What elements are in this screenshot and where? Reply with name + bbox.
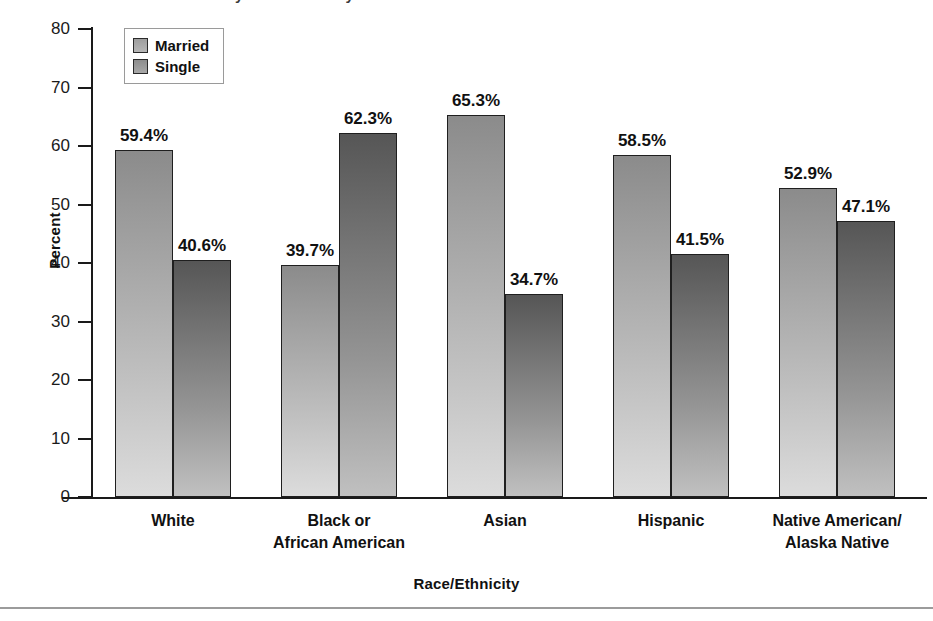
y-axis-tick-label: 10 [30,430,70,447]
y-axis-tick-mark [78,438,92,440]
legend-label: Married [155,37,209,54]
y-axis-tick-label: 80 [30,20,70,37]
x-axis-line [62,497,927,499]
bar-single: 34.7% [505,294,563,497]
bar-single: 40.6% [173,260,231,498]
bar-single: 47.1% [837,221,895,497]
y-axis-tick-mark [78,379,92,381]
bar-value-label: 47.1% [842,197,890,217]
bottom-divider-rule [0,607,933,609]
bar-value-label: 52.9% [784,164,832,184]
bar-married: 59.4% [115,150,173,497]
bar-value-label: 34.7% [510,270,558,290]
plot-area: 59.4%40.6%39.7%62.3%65.3%34.7%58.5%41.5%… [93,29,925,497]
group-label-line: Native American/ [727,510,933,532]
x-axis-title: Race/Ethnicity [0,575,933,592]
legend-entry: Single [133,56,209,77]
legend-swatch-icon [133,59,148,74]
y-axis-tick-mark [78,28,92,30]
y-axis-tick-label: 70 [30,79,70,96]
group-label-line: Alaska Native [727,532,933,554]
bar-single: 62.3% [339,133,397,497]
bar-value-label: 62.3% [344,109,392,129]
y-axis-tick-mark [78,145,92,147]
y-axis-tick-mark [78,262,92,264]
y-axis-tick-label: 30 [30,313,70,330]
y-axis-tick-label: 60 [30,137,70,154]
x-axis-group-label: Native American/Alaska Native [727,510,933,553]
legend-entry: Married [133,35,209,56]
y-axis-tick-mark [78,204,92,206]
bar-married: 65.3% [447,115,505,497]
bar-single: 41.5% [671,254,729,497]
bar-value-label: 40.6% [178,236,226,256]
y-axis-title: Percent [46,181,63,301]
y-axis-tick-mark [78,87,92,89]
y-axis-tick-label: 0 [30,488,70,505]
bar-married: 58.5% [613,155,671,497]
bar-value-label: 59.4% [120,126,168,146]
bar-value-label: 58.5% [618,131,666,151]
bar-value-label: 41.5% [676,230,724,250]
bar-value-label: 65.3% [452,91,500,111]
y-axis-tick-label: 20 [30,371,70,388]
legend: MarriedSingle [124,28,224,84]
bar-value-label: 39.7% [286,241,334,261]
legend-swatch-icon [133,38,148,53]
bar-chart-figure: 80706050403020100 Percent 59.4%40.6%39.7… [0,0,933,621]
group-label-line: African American [229,532,449,554]
bar-married: 39.7% [281,265,339,497]
legend-label: Single [155,58,200,75]
bar-married: 52.9% [779,188,837,497]
y-axis-tick-mark [78,496,92,498]
y-axis-tick-mark [78,321,92,323]
